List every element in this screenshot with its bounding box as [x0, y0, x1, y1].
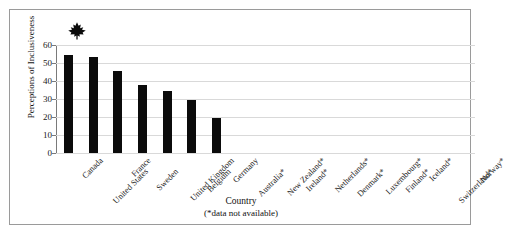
- maple-leaf-icon: [67, 21, 87, 41]
- x-axis-category-label: Belgium: [205, 167, 232, 194]
- y-axis-tick-label: 20: [43, 113, 52, 122]
- y-axis-tick-mark: [52, 135, 56, 136]
- y-axis-tick-mark: [52, 45, 56, 46]
- y-axis-tick-mark: [52, 153, 56, 154]
- y-axis-tick-labels: 6050403020100: [40, 45, 52, 153]
- x-axis-category-label: Germany: [231, 156, 260, 185]
- y-axis-title: Perceptions of Inclusiveness: [26, 2, 36, 132]
- gridline: [56, 45, 475, 46]
- x-axis-category-label: Australia*: [257, 167, 288, 198]
- x-axis-category-label: Sweden: [155, 167, 180, 192]
- bar: [187, 100, 196, 153]
- y-axis-tick-mark: [52, 63, 56, 64]
- y-axis-tick-label: 40: [43, 77, 52, 86]
- x-axis-title-note: (*data not available): [10, 207, 472, 219]
- figure-frame: Perceptions of Inclusiveness 60504030201…: [9, 9, 471, 225]
- bar: [113, 71, 122, 153]
- y-axis-tick-label: 10: [43, 131, 52, 140]
- y-axis-tick-label: 30: [43, 95, 52, 104]
- x-axis-title: Country (*data not available): [10, 195, 472, 219]
- bar: [64, 55, 73, 153]
- y-axis-tick-mark: [52, 81, 56, 82]
- clipped-header-text: ······: [78, 0, 94, 2]
- x-axis-title-main: Country: [10, 195, 472, 207]
- plot-area: [56, 45, 476, 153]
- x-axis-category-label: Canada: [81, 156, 105, 180]
- y-axis-tick-label: 50: [43, 59, 52, 68]
- bar: [138, 85, 147, 153]
- gridline: [56, 153, 475, 154]
- bar: [163, 91, 172, 153]
- bar: [212, 118, 221, 153]
- x-axis-category-label: Iceland*: [428, 156, 455, 183]
- y-axis-tick-mark: [52, 117, 56, 118]
- y-axis-tick-mark: [52, 99, 56, 100]
- y-axis-tick-label: 60: [43, 41, 52, 50]
- bar: [89, 57, 98, 153]
- gridline: [56, 63, 475, 64]
